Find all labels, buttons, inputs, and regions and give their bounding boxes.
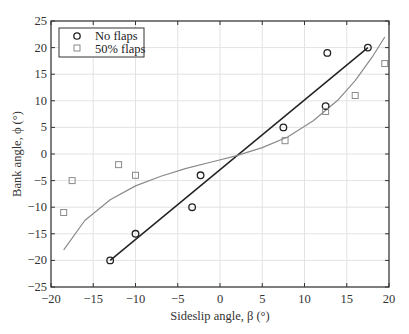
x-tick-label: −20 xyxy=(41,292,61,306)
y-tick-label: 0 xyxy=(41,147,47,161)
y-axis-label: Bank angle, ϕ (°) xyxy=(10,111,24,197)
y-tick-label: −10 xyxy=(27,200,47,214)
curve-fit-line xyxy=(64,37,385,250)
y-tick-label: −5 xyxy=(34,174,47,188)
y-tick-label: −25 xyxy=(27,280,47,294)
x-tick-label: −5 xyxy=(171,292,184,306)
legend-label-50-flaps: 50% flaps xyxy=(95,42,145,56)
grid-lines xyxy=(51,21,389,287)
square-marker xyxy=(352,92,358,98)
y-tick-label: 25 xyxy=(35,14,48,28)
x-tick-label: 5 xyxy=(259,292,265,306)
square-marker xyxy=(382,61,388,67)
y-tick-labels: −25−20−15−10−50510152025 xyxy=(27,14,47,294)
x-tick-label: 20 xyxy=(383,292,396,306)
circle-marker xyxy=(197,172,204,179)
x-tick-label: −15 xyxy=(83,292,103,306)
fit-lines xyxy=(64,37,385,260)
circle-marker xyxy=(324,50,331,57)
y-tick-label: 20 xyxy=(35,41,48,55)
x-tick-label: 15 xyxy=(341,292,354,306)
y-tick-label: 15 xyxy=(35,67,48,81)
x-tick-label: −10 xyxy=(126,292,146,306)
scatter-chart: −20−15−10−505101520 −25−20−15−10−5051015… xyxy=(0,0,409,334)
square-marker xyxy=(61,210,67,216)
y-tick-label: 5 xyxy=(41,120,47,134)
x-tick-labels: −20−15−10−505101520 xyxy=(41,292,395,306)
legend: No flaps 50% flaps xyxy=(59,28,145,57)
y-tick-label: −20 xyxy=(27,253,47,267)
x-tick-label: 0 xyxy=(217,292,223,306)
x-axis-label: Sideslip angle, β (°) xyxy=(170,309,270,323)
y-tick-label: −15 xyxy=(27,227,47,241)
y-tick-label: 10 xyxy=(35,94,48,108)
legend-label-no-flaps: No flaps xyxy=(95,29,138,43)
x-tick-label: 10 xyxy=(298,292,311,306)
square-marker xyxy=(116,162,122,168)
